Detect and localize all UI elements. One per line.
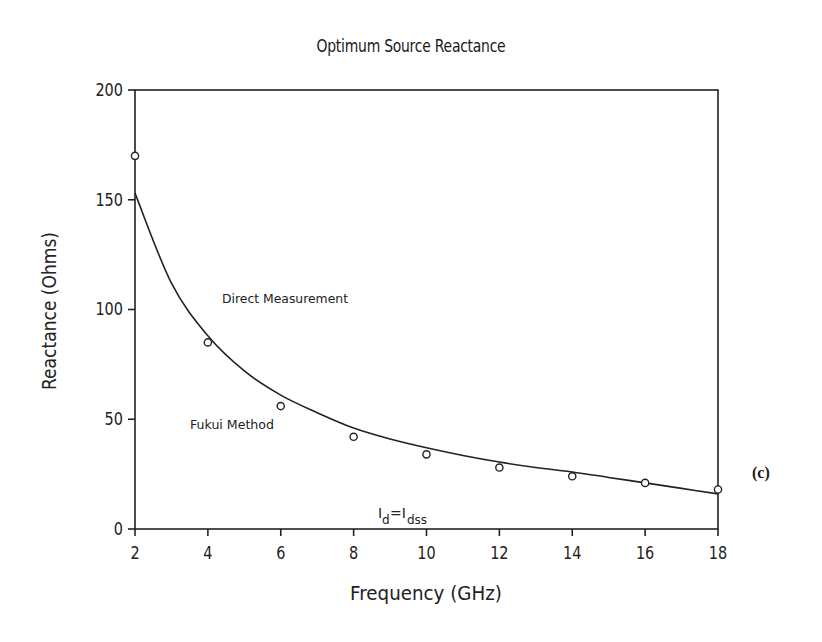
data-point: [642, 479, 649, 486]
annotation-direct-measurement: Direct Measurement: [222, 291, 348, 306]
x-tick-label: 8: [349, 543, 358, 563]
chart-plot: 050100150200 24681012141618 Frequency (G…: [0, 0, 822, 642]
y-tick-label: 50: [105, 409, 123, 429]
y-axis-label: Reactance (Ohms): [37, 232, 61, 390]
y-tick-label: 0: [114, 519, 123, 539]
fukui-method-curve: [135, 193, 718, 494]
x-tick-label: 10: [417, 543, 435, 563]
x-tick-label: 2: [130, 543, 139, 563]
svg-text:dss: dss: [407, 513, 427, 527]
y-tick-label: 200: [95, 80, 123, 100]
data-point: [131, 152, 138, 159]
x-axis-label: Frequency (GHz): [350, 581, 502, 605]
x-tick-label: 18: [709, 543, 727, 563]
y-tick-label: 150: [95, 190, 123, 210]
panel-label: (c): [752, 464, 770, 482]
y-tick-label: 100: [95, 299, 123, 319]
x-tick-label: 6: [276, 543, 285, 563]
data-point: [204, 339, 211, 346]
y-axis-ticks: 050100150200: [95, 80, 135, 539]
data-point: [569, 473, 576, 480]
data-point: [423, 451, 430, 458]
data-point: [714, 486, 721, 493]
x-tick-label: 14: [563, 543, 581, 563]
annotation-fukui-method: Fukui Method: [190, 417, 274, 432]
x-axis-ticks: 24681012141618: [130, 529, 727, 563]
data-point: [350, 433, 357, 440]
data-point: [277, 402, 284, 409]
x-tick-label: 4: [203, 543, 212, 563]
x-tick-label: 12: [490, 543, 508, 563]
annotation-id-equals-idss: I d =I dss: [378, 505, 427, 527]
plot-frame: [135, 90, 718, 529]
direct-measurement-points: [131, 152, 721, 493]
svg-text:d: d: [382, 513, 390, 527]
x-tick-label: 16: [636, 543, 654, 563]
svg-text:=I: =I: [390, 505, 406, 521]
data-point: [496, 464, 503, 471]
